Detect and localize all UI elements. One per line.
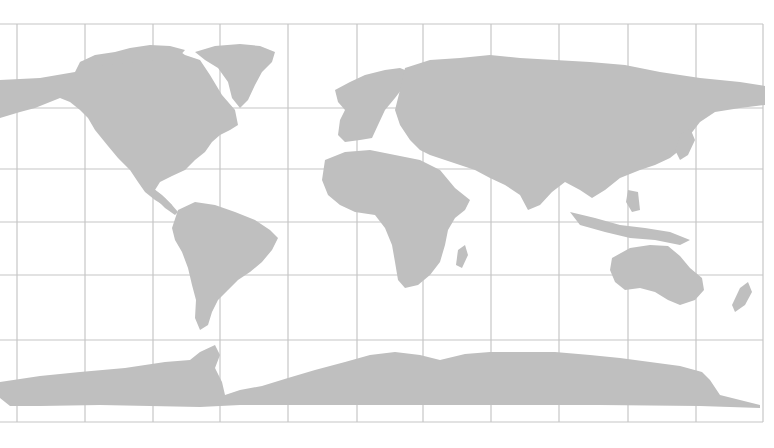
antarctica (0, 345, 760, 408)
north-america (0, 48, 238, 208)
indonesia (570, 212, 690, 245)
south-america (172, 202, 278, 330)
australia (610, 245, 704, 305)
central-america (150, 186, 178, 215)
africa (322, 150, 470, 288)
world-map (0, 0, 774, 448)
madagascar (456, 245, 468, 268)
new-zealand (732, 282, 752, 312)
landmasses (0, 44, 765, 408)
